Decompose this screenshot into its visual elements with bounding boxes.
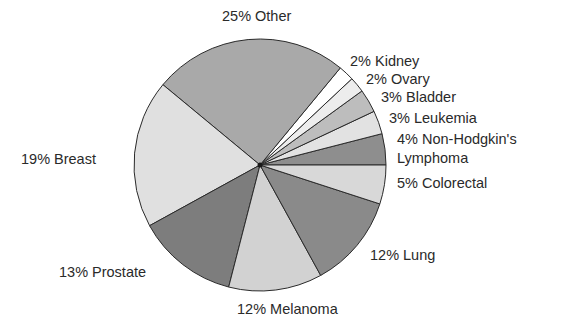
label-leukemia: 3% Leukemia bbox=[389, 110, 477, 126]
label-kidney: 2% Kidney bbox=[350, 53, 419, 69]
label-nhl-line2: Lymphoma bbox=[397, 150, 468, 166]
label-ovary: 2% Ovary bbox=[366, 71, 430, 87]
label-prostate: 13% Prostate bbox=[59, 264, 146, 280]
label-other: 25% Other bbox=[222, 8, 291, 24]
pie-slices bbox=[134, 39, 386, 291]
label-breast: 19% Breast bbox=[21, 151, 96, 167]
label-melanoma: 12% Melanoma bbox=[237, 301, 338, 317]
pie-center bbox=[258, 163, 263, 168]
label-lung: 12% Lung bbox=[370, 247, 435, 263]
label-nhl-line1: 4% Non-Hodgkin's bbox=[397, 131, 517, 147]
label-colorectal: 5% Colorectal bbox=[397, 175, 487, 191]
label-bladder: 3% Bladder bbox=[381, 89, 456, 105]
